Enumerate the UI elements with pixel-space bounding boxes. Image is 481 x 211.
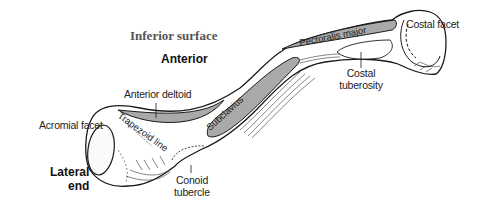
conoid-tubercle-line2: tubercle <box>170 187 214 199</box>
lateral-end-label: Lateral end <box>50 166 89 194</box>
costal-tuberosity-label: Costal tuberosity <box>338 68 384 91</box>
anterior-deltoid-label: Anterior deltoid <box>124 89 191 101</box>
costal-tuberosity-line1: Costal <box>338 68 384 80</box>
conoid-tubercle-line1: Conoid <box>170 175 214 187</box>
diagram-title: Inferior surface <box>130 28 217 44</box>
lateral-end-line1: Lateral <box>50 166 89 180</box>
acromial-facet-label: Acromial facet <box>39 120 103 132</box>
lateral-end-line2: end <box>50 180 89 194</box>
costal-tuberosity-line2: tuberosity <box>338 80 384 92</box>
subclavius-area: Subclavius <box>204 57 300 136</box>
orientation-label: Anterior <box>161 53 208 67</box>
conoid-tubercle-label: Conoid tubercle <box>170 175 214 198</box>
costal-facet-label: Costal facet <box>406 19 459 31</box>
